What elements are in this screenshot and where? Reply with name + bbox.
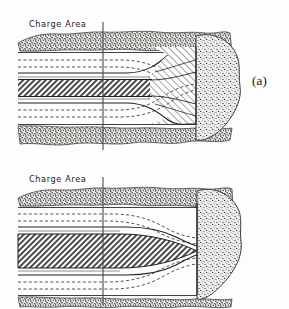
panel-b-diagram: Charge Area: [0, 155, 289, 309]
charge-zone-hatched-a: [148, 47, 196, 124]
charge-area-annotation-b: Charge Area: [29, 174, 86, 184]
hatched-seam-core-b: [18, 234, 197, 268]
figure-sheet: Charge Area (a): [0, 0, 289, 309]
panel-a-diagram: Charge Area: [0, 0, 289, 155]
panel-label-a: (a): [252, 73, 267, 89]
panel-a: Charge Area (a): [0, 0, 289, 155]
panel-b: Charge Area (b): [0, 155, 289, 309]
hatched-seam-core-a: [18, 80, 150, 96]
right-rock-face-b: [197, 189, 241, 299]
charge-area-annotation-a: Charge Area: [29, 19, 86, 29]
right-rock-face-a: [196, 35, 240, 141]
